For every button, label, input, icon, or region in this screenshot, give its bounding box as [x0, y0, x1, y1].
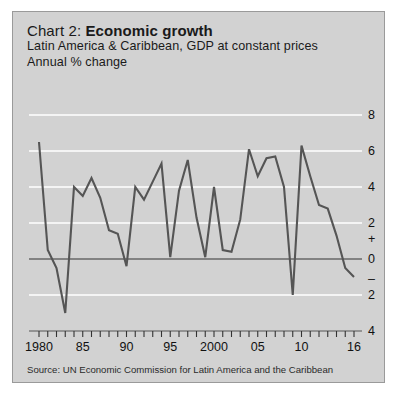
y-axis-tick-label: 2 [368, 288, 388, 302]
x-axis-tick-label: 85 [76, 340, 90, 354]
y-axis-tick-label: + [368, 232, 388, 246]
y-axis-tick-label: 4 [368, 180, 388, 194]
chart-panel: Chart 2: Economic growth Latin America &… [12, 11, 385, 383]
y-axis-tick-label: – [368, 272, 388, 286]
x-axis-tick-label: 10 [295, 340, 309, 354]
y-axis-tick-label: 2 [368, 216, 388, 230]
x-axis-tick-label: 95 [163, 340, 177, 354]
y-axis-tick-label: 8 [368, 108, 388, 122]
x-axis-tick-label: 05 [251, 340, 265, 354]
y-axis-tick-label: 4 [368, 324, 388, 338]
data-series-line [39, 142, 354, 313]
x-axis-tick-label: 2000 [200, 340, 228, 354]
source-note: Source: UN Economic Commission for Latin… [27, 364, 333, 375]
x-axis-tick-label: 90 [120, 340, 134, 354]
x-axis-tick-label: 1980 [25, 340, 53, 354]
x-axis-tick-label: 16 [347, 340, 361, 354]
growth-line-chart [13, 12, 386, 384]
plot-area: 8642+0–2419808590952000051016 [13, 12, 386, 384]
y-axis-tick-label: 0 [368, 252, 388, 266]
y-axis-tick-label: 6 [368, 144, 388, 158]
